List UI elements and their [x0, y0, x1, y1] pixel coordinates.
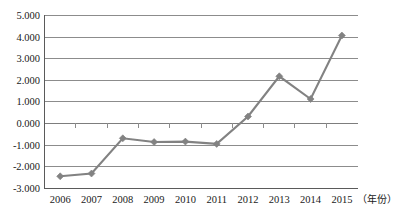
x-tick-label-2012: 2012: [238, 194, 259, 205]
data-point-2010: [182, 138, 189, 145]
x-tick-label-2010: 2010: [175, 194, 196, 205]
series-markers-group: [57, 32, 346, 180]
series-line-path: [60, 36, 342, 177]
chart-canvas: 5.000 4.000 3.000 2.000 1.000 0.000 -1.0…: [0, 0, 396, 218]
y-tick-label-5000: 5.000: [16, 10, 40, 21]
y-tick-label-4000: 4.000: [16, 32, 40, 43]
x-axis-caption: （年份）: [357, 193, 396, 205]
data-series-group: [57, 32, 346, 180]
y-tick-label-0000: 0.000: [16, 118, 40, 129]
data-point-2006: [57, 173, 64, 180]
y-tick-label-neg2000: -2.000: [13, 161, 40, 172]
y-tick-label-3000: 3.000: [16, 53, 40, 64]
data-point-2015: [338, 32, 345, 39]
x-tick-label-2011: 2011: [206, 194, 227, 205]
x-axis-tick-labels: 2006 2007 2008 2009 2010 2011 2012 2013 …: [50, 193, 396, 205]
zero-axis-ticks-group: [76, 123, 326, 128]
y-axis-tick-labels: 5.000 4.000 3.000 2.000 1.000 0.000 -1.0…: [13, 10, 40, 194]
y-tick-label-neg3000: -3.000: [13, 183, 40, 194]
y-tick-label-neg1000: -1.000: [13, 140, 40, 151]
x-tick-label-2007: 2007: [81, 194, 102, 205]
x-tick-label-2015: 2015: [331, 194, 352, 205]
data-point-2009: [151, 139, 158, 146]
x-tick-label-2014: 2014: [300, 194, 322, 205]
x-tick-label-2006: 2006: [50, 194, 71, 205]
line-chart-figure: 5.000 4.000 3.000 2.000 1.000 0.000 -1.0…: [0, 0, 396, 218]
y-tick-label-2000: 2.000: [16, 75, 40, 86]
x-tick-label-2009: 2009: [144, 194, 165, 205]
x-tick-label-2008: 2008: [112, 194, 133, 205]
x-tick-label-2013: 2013: [269, 194, 290, 205]
y-tick-label-1000: 1.000: [16, 96, 40, 107]
